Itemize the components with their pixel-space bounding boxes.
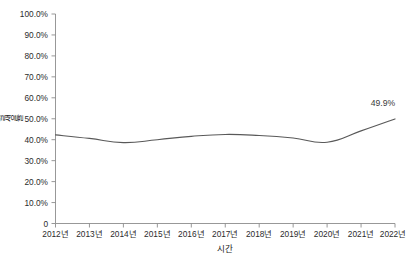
x-axis-tick-labels: 2012년 2013년 2014년 2015년 2016년 2017년 2018… <box>42 229 406 239</box>
chart-canvas: 100.0% 90.0% 80.0% 70.0% 60.0% 50.0% 40.… <box>0 0 407 258</box>
line-chart-figure: 100.0% 90.0% 80.0% 70.0% 60.0% 50.0% 40.… <box>0 0 407 258</box>
y-tick-label: 80.0% <box>24 51 48 61</box>
x-tick-label: 2016년 <box>178 229 204 239</box>
x-tick-label: 2013년 <box>76 229 102 239</box>
y-tick-label: 60.0% <box>24 93 48 103</box>
x-tick-label: 2018년 <box>246 229 272 239</box>
y-tick-label: 20.0% <box>24 177 48 187</box>
x-tick-label: 2015년 <box>144 229 170 239</box>
y-axis-tick-labels: 100.0% 90.0% 80.0% 70.0% 60.0% 50.0% 40.… <box>20 9 49 229</box>
x-axis-ticks <box>56 224 396 228</box>
x-tick-label: 2020년 <box>314 229 340 239</box>
y-tick-label: 100.0% <box>20 9 49 19</box>
y-tick-label: 10.0% <box>24 198 48 208</box>
data-point-label: 49.9% <box>371 98 396 108</box>
y-tick-label: 0 <box>43 219 48 229</box>
y-tick-label: 40.0% <box>24 135 48 145</box>
y-axis-title: 발생률 <box>0 114 23 124</box>
x-tick-label: 2022년 <box>380 229 406 239</box>
x-axis-title: 시간 <box>217 244 233 254</box>
x-tick-label: 2014년 <box>110 229 136 239</box>
x-tick-label: 2017년 <box>212 229 238 239</box>
x-tick-label: 2019년 <box>280 229 306 239</box>
x-tick-label: 2012년 <box>42 229 68 239</box>
data-series-line <box>56 119 396 143</box>
y-axis-ticks <box>52 14 56 224</box>
y-tick-label: 30.0% <box>24 156 48 166</box>
y-tick-label: 70.0% <box>24 72 48 82</box>
y-tick-label: 90.0% <box>24 30 48 40</box>
x-tick-label: 2021년 <box>348 229 374 239</box>
y-tick-label: 50.0% <box>24 114 48 124</box>
